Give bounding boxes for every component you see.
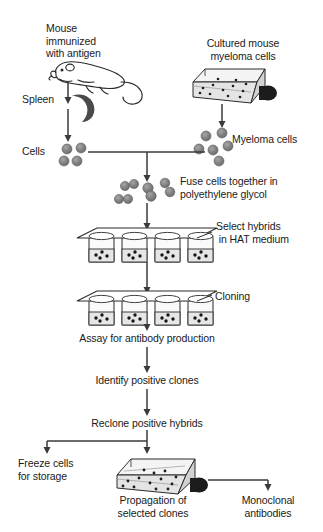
label-freeze-cells: Freeze cells for storage	[18, 457, 73, 482]
label-reclone-hybrids: Reclone positive hybrids	[91, 417, 202, 430]
hybridoma-diagram: Mouse immunized with antigen Cultured mo…	[0, 0, 323, 532]
label-cloning: Cloning	[215, 290, 250, 303]
well-plate-tray-cloning	[77, 291, 217, 325]
mouse-icon	[49, 62, 142, 104]
diagram-artwork	[0, 0, 323, 532]
spleen-icon	[72, 95, 94, 122]
arrow-flask-to-antibodies	[208, 480, 268, 487]
branch-connector-reclone	[47, 430, 147, 450]
label-mouse-immunized: Mouse immunized with antigen	[46, 22, 101, 60]
label-cells: Cells	[22, 145, 45, 158]
label-select-hybrids: Select hybrids in HAT medium	[216, 220, 289, 245]
well-plate-tray-hat	[77, 228, 217, 262]
label-fuse-cells: Fuse cells together in polyethylene glyc…	[180, 175, 278, 200]
label-monoclonal-antibodies: Monoclonal antibodies	[242, 494, 295, 519]
label-propagation-clones: Propagation of selected clones	[118, 494, 189, 519]
culture-flask-icon-bottom	[117, 459, 208, 494]
label-spleen: Spleen	[22, 93, 54, 106]
label-myeloma-cells: Myeloma cells	[232, 133, 297, 146]
label-cultured-myeloma: Cultured mouse myeloma cells	[207, 37, 280, 62]
label-assay-antibody: Assay for antibody production	[79, 332, 214, 345]
fused-cell-cluster	[114, 178, 174, 203]
label-identify-clones: Identify positive clones	[95, 374, 198, 387]
culture-flask-icon-top	[193, 69, 277, 103]
myeloma-cell-cluster	[194, 128, 233, 166]
spleen-cell-cluster	[59, 143, 86, 166]
